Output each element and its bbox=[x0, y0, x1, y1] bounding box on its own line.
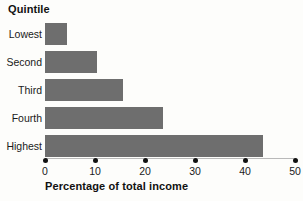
bar bbox=[45, 107, 163, 129]
bar-category-label: Second bbox=[0, 51, 42, 73]
x-axis-tick-dot bbox=[193, 158, 198, 163]
bar-row: Second bbox=[0, 51, 303, 73]
x-axis-tick-dot bbox=[293, 158, 298, 163]
x-axis-line bbox=[45, 158, 295, 159]
bar-category-label: Third bbox=[0, 79, 42, 101]
bar-category-label: Highest bbox=[0, 135, 42, 157]
x-axis-tick-label: 20 bbox=[130, 165, 160, 177]
x-axis-tick-dot bbox=[43, 158, 48, 163]
bar-chart: Quintile LowestSecondThirdFourthHighest … bbox=[0, 0, 303, 201]
x-axis-tick-label: 40 bbox=[230, 165, 260, 177]
x-axis-tick-label: 50 bbox=[280, 165, 303, 177]
bar-category-label: Lowest bbox=[0, 23, 42, 45]
bar-category-label: Fourth bbox=[0, 107, 42, 129]
bar bbox=[45, 51, 97, 73]
bar-row: Highest bbox=[0, 135, 303, 157]
x-axis-tick-dot bbox=[243, 158, 248, 163]
bar-row: Fourth bbox=[0, 107, 303, 129]
x-axis-tick-label: 10 bbox=[80, 165, 110, 177]
bar bbox=[45, 79, 123, 101]
x-axis-tick-dot bbox=[143, 158, 148, 163]
x-axis-tick-dot bbox=[93, 158, 98, 163]
x-axis-tick-label: 30 bbox=[180, 165, 210, 177]
x-axis-title: Percentage of total income bbox=[45, 180, 188, 192]
bar bbox=[45, 135, 263, 157]
bar-row: Third bbox=[0, 79, 303, 101]
bar-row: Lowest bbox=[0, 23, 303, 45]
bar bbox=[45, 23, 67, 45]
x-axis-tick-label: 0 bbox=[30, 165, 60, 177]
